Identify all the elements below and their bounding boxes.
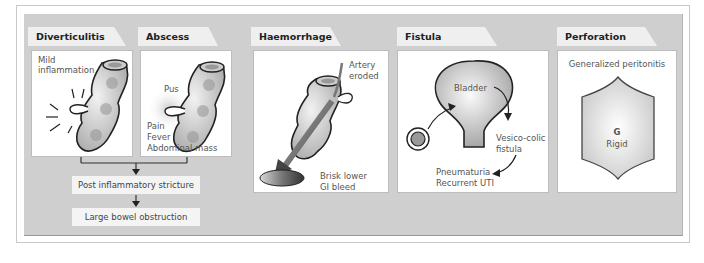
label-recurrent-uti: Recurrent UTI — [436, 178, 494, 189]
label-bladder: Bladder — [454, 83, 487, 94]
label-g-mark: G — [558, 127, 676, 138]
label-eroded: eroded — [349, 71, 379, 82]
arrow-down-icon — [132, 201, 140, 207]
arrow-down-icon — [132, 169, 140, 175]
rigid-abdomen-icon — [558, 51, 678, 194]
label-fistula: fistula — [496, 144, 522, 155]
label-gi-bleed: GI bleed — [320, 182, 355, 193]
label-brisk-lower: Brisk lower — [320, 171, 367, 182]
flow-step-obstruction: Large bowel obstruction — [72, 208, 200, 226]
flow-step-stricture: Post inflammatory stricture — [72, 176, 200, 194]
card-fistula-formation: Bladder Vesico-colic fistula Pneumaturia… — [397, 50, 549, 193]
label-vesico-colic: Vesico-colic — [496, 133, 546, 144]
label-rigid: Rigid — [558, 139, 676, 150]
label-pneumaturia: Pneumaturia — [436, 167, 490, 178]
card-perforation: Generalized peritonitis G Rigid — [557, 50, 677, 193]
label-artery: Artery — [349, 60, 375, 71]
card-haemorrhage: Artery eroded Brisk lower GI bleed — [253, 50, 389, 193]
